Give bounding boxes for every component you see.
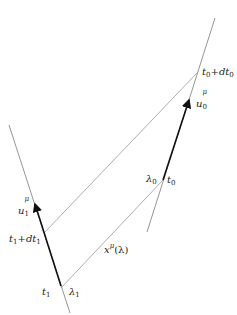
label-x-mu-lambda: xμ(λ) xyxy=(104,243,128,255)
label-sub: 1 xyxy=(46,291,50,299)
label-plus: + xyxy=(211,66,219,77)
label-t0: t0 xyxy=(167,175,176,187)
label-t1: t1 xyxy=(42,287,51,299)
label-sub: 0 xyxy=(202,103,206,111)
label-t0-plus-dt0: t0+dt0 xyxy=(202,67,234,79)
connector-lower-x-lambda xyxy=(61,180,163,288)
label-sub: 1 xyxy=(75,291,79,299)
label-plus: + xyxy=(18,233,26,244)
label-d: dt xyxy=(26,233,36,244)
label-d: dt xyxy=(219,66,229,77)
velocity-u0-arrow-icon xyxy=(163,100,189,180)
label-u0: uμ0 xyxy=(196,99,207,111)
label-lambda0: λ0 xyxy=(146,174,157,186)
worldline-diagram xyxy=(0,0,237,315)
label-sub: 0 xyxy=(171,179,175,187)
connector-upper xyxy=(44,73,197,233)
label-lambda1: λ1 xyxy=(69,287,80,299)
label-arg: (λ) xyxy=(114,244,128,255)
label-t1-plus-dt1: t1+dt1 xyxy=(9,234,41,246)
label-sub: 1 xyxy=(24,210,28,218)
label-sub2: 0 xyxy=(229,71,233,79)
label-sub2: 1 xyxy=(36,238,40,246)
label-sup: μ xyxy=(24,196,29,203)
label-sup: μ xyxy=(202,89,207,96)
label-sub: 0 xyxy=(152,178,156,186)
label-u1: uμ1 xyxy=(18,206,29,218)
